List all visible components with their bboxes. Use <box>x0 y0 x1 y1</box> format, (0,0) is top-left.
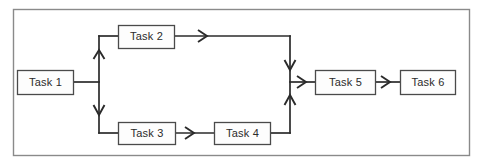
node-task2[interactable]: Task 2 <box>119 26 175 49</box>
node-task6[interactable]: Task 6 <box>401 71 456 95</box>
task5-label: Task 5 <box>329 76 362 88</box>
task3-label: Task 3 <box>131 127 164 139</box>
flowchart-svg: Task 1 Task 2 Task 3 Task 4 Task 5 Task … <box>0 0 483 166</box>
task1-label: Task 1 <box>29 76 62 88</box>
node-task4[interactable]: Task 4 <box>215 123 271 145</box>
task6-label: Task 6 <box>412 76 445 88</box>
node-task3[interactable]: Task 3 <box>119 123 176 145</box>
node-task5[interactable]: Task 5 <box>316 71 376 95</box>
node-task1[interactable]: Task 1 <box>18 71 74 95</box>
task4-label: Task 4 <box>226 127 259 139</box>
diagram-canvas: Task 1 Task 2 Task 3 Task 4 Task 5 Task … <box>0 0 483 166</box>
task2-label: Task 2 <box>130 30 163 42</box>
